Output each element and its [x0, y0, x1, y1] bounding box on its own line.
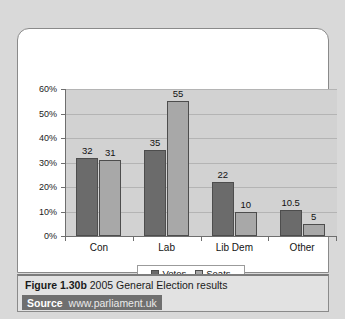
y-axis-tick-label: 60% — [23, 85, 57, 94]
y-axis-tick-label: 30% — [23, 159, 57, 168]
figure-caption: Figure 1.30b 2005 General Election resul… — [25, 279, 228, 292]
bar-other-seats — [303, 224, 325, 236]
y-axis-tick-label: 20% — [23, 183, 57, 192]
bar-lab-votes — [144, 150, 166, 236]
bar-lab-seats — [167, 101, 189, 236]
caption-block: Figure 1.30b 2005 General Election resul… — [17, 274, 329, 312]
gridline — [66, 114, 337, 115]
figure-number: Figure 1.30b — [25, 279, 87, 291]
figure-page: 0%10%20%30%40%50%60% 32313555221010.55 C… — [0, 0, 345, 319]
bar-con-votes — [76, 158, 98, 236]
x-axis-tick-mark — [65, 237, 66, 241]
x-axis-tick-mark — [133, 237, 134, 241]
bar-value-label: 31 — [94, 148, 126, 158]
y-axis-tick-label: 0% — [23, 232, 57, 241]
source-url: www.parliament.uk — [69, 297, 157, 309]
gridline — [66, 138, 337, 139]
x-axis-tick-mark — [336, 237, 337, 241]
source-label: Source — [27, 297, 63, 309]
y-axis-tick-label: 10% — [23, 208, 57, 217]
bar-lib-dem-seats — [235, 212, 257, 237]
x-axis-tick-mark — [268, 237, 269, 241]
bar-con-seats — [99, 160, 121, 236]
figure-title-text: 2005 General Election results — [90, 279, 228, 291]
y-axis-tick-label: 40% — [23, 134, 57, 143]
bar-value-label: 10.5 — [275, 198, 307, 208]
bar-value-label: 22 — [207, 170, 239, 180]
figure-card: 0%10%20%30%40%50%60% 32313555221010.55 C… — [17, 28, 329, 273]
bar-value-label: 55 — [162, 89, 194, 99]
source-bar: Source www.parliament.uk — [22, 295, 162, 310]
x-axis-tick-mark — [201, 237, 202, 241]
x-axis-category-lib-dem: Lib Dem — [201, 242, 269, 254]
bar-value-label: 10 — [230, 200, 262, 210]
y-axis-tick-label: 50% — [23, 110, 57, 119]
x-axis-category-con: Con — [65, 242, 133, 254]
bar-value-label: 5 — [298, 212, 330, 222]
x-axis-category-lab: Lab — [133, 242, 201, 254]
x-axis-category-other: Other — [268, 242, 336, 254]
gridline — [66, 89, 337, 90]
